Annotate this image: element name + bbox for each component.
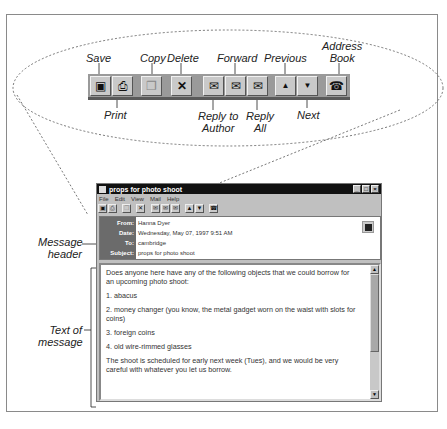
address-book-icon: ☎ [329, 80, 344, 92]
date-label: Date: [100, 229, 134, 238]
callout-reply-to-author: Reply to Author [198, 110, 238, 134]
scroll-thumb[interactable] [370, 274, 379, 352]
message-header: From: Hanna Dyer Date: Wednesday, May 07… [99, 216, 381, 260]
copy-icon: ❐ [124, 205, 129, 211]
print-button[interactable]: ⎙ [112, 76, 133, 96]
to-value: cambridge [138, 239, 166, 248]
callout-line-2: Book [322, 52, 362, 64]
envelope-reply-icon: ✉ [153, 205, 158, 211]
reply-to-author-button[interactable]: ✉ [203, 76, 224, 96]
printer-icon: ⎙ [118, 80, 128, 92]
copy-icon: ❐ [146, 80, 157, 92]
envelope-reply-icon: ✉ [209, 80, 219, 92]
header-date-row: Date: Wednesday, May 07, 1997 9:51 AM [100, 229, 380, 238]
menu-bar: File Edit View Mail Help [97, 194, 381, 203]
scroll-up-button[interactable]: ▲ [370, 265, 379, 274]
callout-line-1: Reply [246, 110, 274, 122]
printer-icon: ⎙ [110, 205, 115, 211]
menu-edit[interactable]: Edit [115, 196, 125, 202]
callout-message-header: Message header [38, 236, 82, 260]
message-item-2: 2. money changer (you know, the metal ga… [106, 305, 356, 323]
enlarged-toolbar: ▣ ⎙ ❐ ✕ ✉ ✉ ✉ ▲ ▼ ☎ [88, 74, 350, 100]
address-book-icon[interactable] [362, 221, 374, 233]
to-label: To: [100, 239, 134, 248]
forward-button[interactable]: ✉ [225, 76, 246, 96]
save-button[interactable]: ▣ [98, 204, 107, 213]
header-to-row: To: cambridge [100, 239, 380, 248]
message-item-3: 3. foreign coins [106, 328, 356, 337]
floppy-disk-icon: ▣ [100, 205, 106, 211]
envelope-icon [99, 186, 106, 193]
callout-line-2: Author [198, 122, 238, 134]
envelope-forward-icon: ✉ [163, 205, 168, 211]
message-item-4: 4. old wire-rimmed glasses [106, 342, 356, 351]
print-button[interactable]: ⎙ [108, 204, 117, 213]
message-body[interactable]: Does anyone here have any of the followi… [99, 263, 381, 401]
callout-reply-all: Reply All [246, 110, 274, 134]
callout-save: Save [86, 52, 111, 64]
callout-line-2: message [38, 336, 82, 348]
arrow-down-icon: ▼ [304, 82, 312, 90]
callout-copy: Copy [140, 52, 166, 64]
reply-to-author-button[interactable]: ✉ [151, 204, 160, 213]
x-icon: ✕ [138, 205, 143, 211]
close-button[interactable]: × [371, 185, 379, 193]
menu-file[interactable]: File [99, 196, 109, 202]
callout-line-2: All [246, 122, 274, 134]
header-subject-row: Subject: props for photo shoot [100, 249, 380, 258]
menu-help[interactable]: Help [167, 196, 179, 202]
callout-previous: Previous [264, 52, 307, 64]
from-value: Hanna Dyer [138, 219, 170, 228]
next-button[interactable]: ▼ [297, 76, 318, 96]
minimize-button[interactable]: _ [353, 185, 361, 193]
header-from-row: From: Hanna Dyer [100, 219, 380, 228]
x-icon: ✕ [177, 80, 187, 92]
callout-line-1: Text of [38, 324, 82, 336]
date-value: Wednesday, May 07, 1997 9:51 AM [138, 229, 233, 238]
reply-all-button[interactable]: ✉ [171, 204, 180, 213]
copy-button[interactable]: ❐ [122, 204, 131, 213]
vertical-scrollbar[interactable]: ▲ ▼ [370, 265, 379, 399]
message-item-1: 1. abacus [106, 291, 356, 300]
address-book-button[interactable]: ☎ [209, 204, 218, 213]
subject-label: Subject: [100, 249, 134, 258]
copy-button[interactable]: ❐ [141, 76, 162, 96]
forward-button[interactable]: ✉ [161, 204, 170, 213]
callout-delete: Delete [167, 52, 199, 64]
window-title: props for photo shoot [109, 186, 182, 193]
arrow-up-icon: ▲ [282, 82, 290, 90]
callout-line-1: Address [322, 40, 362, 52]
menu-view[interactable]: View [131, 196, 144, 202]
mail-window: props for photo shoot _ □ × File Edit Vi… [96, 183, 382, 402]
previous-button[interactable]: ▲ [275, 76, 296, 96]
message-closing: The shoot is scheduled for early next we… [106, 356, 356, 374]
address-book-button[interactable]: ☎ [326, 76, 347, 96]
title-bar: props for photo shoot _ □ × [97, 184, 381, 194]
from-label: From: [100, 219, 134, 228]
delete-button[interactable]: ✕ [136, 204, 145, 213]
save-button[interactable]: ▣ [90, 76, 111, 96]
callout-address-book: Address Book [322, 40, 362, 64]
arrow-down-icon: ▼ [197, 205, 203, 211]
arrow-up-icon: ▲ [187, 205, 193, 211]
envelope-forward-icon: ✉ [231, 80, 241, 92]
callout-line-2: header [38, 248, 82, 260]
reply-all-button[interactable]: ✉ [247, 76, 268, 96]
floppy-disk-icon: ▣ [95, 80, 106, 92]
callout-text-of-message: Text of message [38, 324, 82, 348]
callout-next: Next [297, 109, 320, 121]
callout-line-1: Reply to [198, 110, 238, 122]
next-button[interactable]: ▼ [195, 204, 204, 213]
callout-forward: Forward [217, 52, 257, 64]
callout-print: Print [104, 109, 127, 121]
scroll-down-button[interactable]: ▼ [370, 390, 379, 399]
message-text: Does anyone here have any of the followi… [106, 268, 356, 379]
delete-button[interactable]: ✕ [171, 76, 192, 96]
previous-button[interactable]: ▲ [185, 204, 194, 213]
message-intro: Does anyone here have any of the followi… [106, 268, 356, 286]
subject-value: props for photo shoot [138, 249, 195, 258]
maximize-button[interactable]: □ [362, 185, 370, 193]
menu-mail[interactable]: Mail [150, 196, 161, 202]
callout-line-1: Message [38, 236, 82, 248]
envelope-reply-all-icon: ✉ [253, 80, 263, 92]
